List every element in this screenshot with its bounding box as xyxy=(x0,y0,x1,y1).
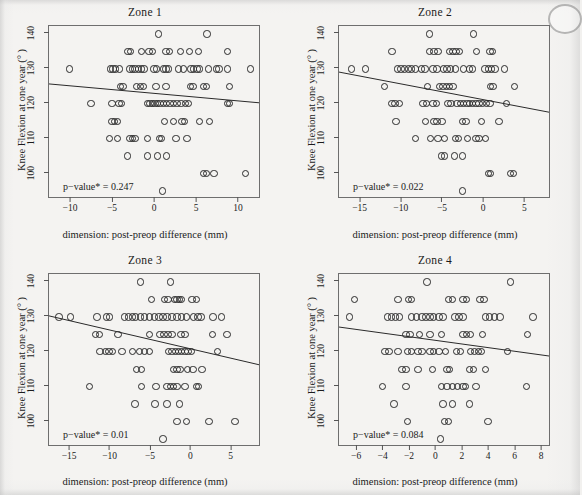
y-axis-tick: 110 xyxy=(309,133,339,143)
x-axis-label: dimension: post-preop difference (mm) xyxy=(0,476,290,487)
data-point xyxy=(209,331,216,338)
x-axis-tick-label: 2 xyxy=(459,451,464,461)
data-point xyxy=(181,118,188,125)
y-axis-tick-label: 110 xyxy=(26,126,36,149)
y-axis-tick-label: 100 xyxy=(316,409,326,432)
data-point xyxy=(451,152,458,159)
data-point xyxy=(231,418,238,425)
x-axis-tick-mark xyxy=(356,445,357,450)
x-axis-tick-mark xyxy=(488,445,489,450)
data-point xyxy=(348,65,355,72)
y-axis-tick: 140 xyxy=(19,276,49,286)
y-axis-tick-label: 120 xyxy=(316,91,326,114)
x-axis-tick-label: 0 xyxy=(152,203,157,213)
data-point xyxy=(385,348,392,355)
x-axis-tick-mark xyxy=(238,197,239,202)
data-point xyxy=(421,65,428,72)
x-axis-tick: 5 xyxy=(194,197,199,213)
data-point xyxy=(437,435,444,442)
data-point xyxy=(489,83,496,90)
data-point xyxy=(176,400,183,407)
data-point xyxy=(67,313,74,320)
data-point xyxy=(159,187,166,194)
data-point xyxy=(426,331,433,338)
data-point xyxy=(218,313,225,320)
data-point xyxy=(408,296,415,303)
x-axis-tick-mark xyxy=(541,445,542,450)
x-axis-tick: 0 xyxy=(433,445,438,461)
data-point xyxy=(224,65,231,72)
y-axis-tick: 140 xyxy=(309,28,339,38)
data-point xyxy=(159,435,166,442)
data-point xyxy=(176,366,183,373)
x-axis-tick: 2 xyxy=(459,445,464,461)
y-axis-tick: 120 xyxy=(309,98,339,108)
data-point xyxy=(181,383,188,390)
panel-zone-4: Zone 4 Knee Flexion at one year (° ) 100… xyxy=(290,248,580,495)
y-axis-tick-label: 130 xyxy=(26,56,36,79)
data-point xyxy=(205,418,212,425)
data-point xyxy=(402,366,409,373)
data-point xyxy=(66,65,73,72)
data-point xyxy=(223,331,230,338)
x-axis-tick-mark xyxy=(149,445,150,450)
data-point xyxy=(203,83,210,90)
x-axis-tick-mark xyxy=(196,197,197,202)
data-point xyxy=(163,400,170,407)
data-point xyxy=(196,118,203,125)
x-axis-tick: 6 xyxy=(512,445,517,461)
x-axis-tick-mark xyxy=(382,445,383,450)
data-point xyxy=(452,65,459,72)
x-axis-tick-label: 5 xyxy=(228,451,233,461)
data-point xyxy=(388,48,395,55)
data-point xyxy=(247,65,254,72)
data-point xyxy=(470,366,477,373)
data-point xyxy=(93,313,100,320)
data-point xyxy=(396,313,403,320)
data-point xyxy=(507,278,514,285)
data-point xyxy=(434,48,441,55)
data-point xyxy=(165,65,172,72)
x-axis-tick: 10 xyxy=(233,197,243,213)
x-axis-tick: −5 xyxy=(107,197,117,213)
x-axis-tick-mark xyxy=(190,445,191,450)
panel-zone-3: Zone 3 Knee Flexion at one year (° ) 100… xyxy=(0,248,290,495)
y-axis-tick: 140 xyxy=(309,276,339,286)
x-axis-tick-label: −15 xyxy=(62,451,77,461)
y-axis-tick-label: 130 xyxy=(316,304,326,327)
x-axis-tick: −6 xyxy=(351,445,361,461)
data-point xyxy=(189,83,196,90)
x-axis-tick-label: 0 xyxy=(188,451,193,461)
data-point xyxy=(118,348,125,355)
x-axis-tick-label: −10 xyxy=(63,203,78,213)
plot-area: 100110120130140−6−4−202468p−value* = 0.0… xyxy=(338,273,550,446)
y-axis-tick-label: 130 xyxy=(26,304,36,327)
data-point xyxy=(152,383,159,390)
data-point xyxy=(181,331,188,338)
y-axis-tick: 100 xyxy=(19,416,49,426)
panel-zone-1: Zone 1 Knee Flexion at one year (° ) 100… xyxy=(0,0,290,248)
x-axis-tick: −10 xyxy=(102,445,117,461)
data-point xyxy=(151,400,158,407)
data-point xyxy=(55,313,62,320)
data-point xyxy=(167,278,174,285)
x-axis-tick-label: 4 xyxy=(486,451,491,461)
x-axis-tick-label: 6 xyxy=(512,451,517,461)
data-point xyxy=(495,118,502,125)
y-axis-tick: 110 xyxy=(19,133,49,143)
y-axis-tick: 140 xyxy=(19,28,49,38)
data-point xyxy=(152,83,159,90)
data-point xyxy=(209,313,216,320)
data-point xyxy=(162,83,169,90)
y-axis-tick-label: 100 xyxy=(316,161,326,184)
x-axis-tick: 4 xyxy=(486,445,491,461)
data-point xyxy=(501,65,508,72)
y-axis-tick: 110 xyxy=(19,381,49,391)
panel-title: Zone 4 xyxy=(290,254,580,266)
plot-area: 100110120130140−10−50510p−value* = 0.247 xyxy=(48,25,260,198)
data-point xyxy=(119,83,126,90)
p-value-annotation: p−value* = 0.247 xyxy=(63,181,133,192)
data-point xyxy=(131,135,138,142)
x-axis-tick-label: −5 xyxy=(107,203,117,213)
